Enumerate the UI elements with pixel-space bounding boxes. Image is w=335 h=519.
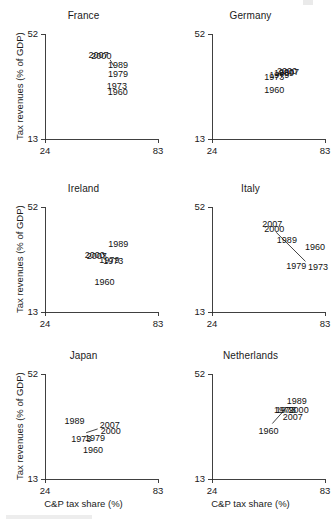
x-tick-label: 24 — [40, 318, 51, 329]
x-axis-title: C&P tax share (%) — [0, 498, 167, 509]
y-axis-title: Tax revenues (% of GDP) — [14, 32, 25, 140]
y-axis-title: Tax revenues (% of GDP) — [14, 372, 25, 480]
panel-ireland: Ireland13522483196019731979198920002007T… — [0, 179, 167, 352]
y-tick-label: 52 — [27, 368, 38, 379]
data-point-label-2007: 2007 — [262, 219, 282, 229]
x-tick-label: 83 — [320, 145, 331, 156]
x-tick-label: 83 — [153, 485, 164, 496]
x-tick-label: 83 — [153, 318, 164, 329]
x-tick-label: 24 — [40, 145, 51, 156]
data-point-label-2007: 2007 — [87, 251, 107, 261]
data-point-label-1960: 1960 — [305, 242, 325, 252]
x-tick-label: 83 — [320, 485, 331, 496]
scan-artifact-top — [303, 0, 313, 5]
x-tick-label: 24 — [207, 318, 218, 329]
x-tick-label: 24 — [207, 485, 218, 496]
data-point-label-2007: 2007 — [283, 412, 303, 422]
panel-netherlands: Netherlands13522483196019731979198920002… — [167, 346, 334, 519]
data-point-label-1989: 1989 — [108, 60, 128, 70]
x-tick-label: 83 — [153, 145, 164, 156]
y-axis-title: Tax revenues (% of GDP) — [14, 205, 25, 313]
data-point-label-1960: 1960 — [95, 277, 115, 287]
panel-japan: Japan13522483196019731979198920002007Tax… — [0, 346, 167, 519]
data-point-label-1989: 1989 — [64, 416, 84, 426]
data-point-label-1960: 1960 — [264, 85, 284, 95]
y-tick-label: 13 — [194, 306, 205, 317]
y-tick-label: 52 — [194, 28, 205, 39]
data-point-label-1960: 1960 — [83, 445, 103, 455]
y-tick-label: 52 — [194, 368, 205, 379]
panel-france: France13522483196019731979198920002007Ta… — [0, 6, 167, 179]
y-tick-label: 52 — [27, 201, 38, 212]
panel-italy: Italy13522483196019731979198920002007 — [167, 179, 334, 352]
y-tick-label: 13 — [27, 473, 38, 484]
data-point-label-1960: 1960 — [258, 426, 278, 436]
x-tick-label: 83 — [320, 318, 331, 329]
x-tick-label: 24 — [207, 145, 218, 156]
y-tick-label: 13 — [27, 133, 38, 144]
y-tick-label: 13 — [194, 133, 205, 144]
data-point-label-1973: 1973 — [308, 262, 328, 272]
y-tick-label: 13 — [194, 473, 205, 484]
data-point-label-2007: 2007 — [100, 420, 120, 430]
data-point-label-2007: 2007 — [88, 50, 108, 60]
figure-root: France13522483196019731979198920002007Ta… — [0, 0, 335, 519]
x-tick-label: 24 — [40, 485, 51, 496]
panel-germany: Germany13522483196019731979198920002007 — [167, 6, 334, 179]
data-point-label-1979: 1979 — [286, 261, 306, 271]
data-point-label-1989: 1989 — [277, 235, 297, 245]
y-tick-label: 13 — [27, 306, 38, 317]
x-axis-title: C&P tax share (%) — [167, 498, 334, 509]
data-point-label-1989: 1989 — [108, 239, 128, 249]
data-point-label-1973: 1973 — [107, 81, 127, 91]
data-point-label-2007: 2007 — [279, 67, 299, 77]
y-tick-label: 52 — [194, 201, 205, 212]
y-tick-label: 52 — [27, 28, 38, 39]
